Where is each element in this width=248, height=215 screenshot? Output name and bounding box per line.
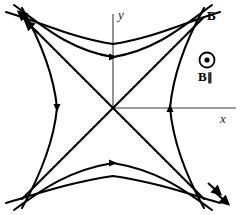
hyperbola-bottom-outer	[6, 176, 220, 203]
circle-dot-center	[204, 57, 209, 62]
y-axis-label: y	[118, 8, 124, 21]
magnetic-field-diagram: y x B B∥	[0, 0, 248, 215]
b-field-label: B	[207, 9, 216, 22]
field-line-canvas	[0, 0, 248, 215]
b-parallel-label: B∥	[198, 70, 212, 83]
b-parallel-symbol: B	[198, 69, 207, 84]
marker-left-vertex	[54, 104, 61, 112]
arrow-bottom-right-upper	[208, 183, 219, 193]
arrow-top-left-lower	[27, 23, 38, 33]
marker-bottom-vertex	[109, 160, 117, 167]
circle-dot-icon	[200, 53, 215, 68]
x-axis-label: x	[220, 112, 226, 125]
hyperbola-left	[22, 8, 57, 208]
hyperbola-bottom-inner	[14, 163, 212, 210]
b-parallel-subscript: ∥	[207, 71, 213, 83]
